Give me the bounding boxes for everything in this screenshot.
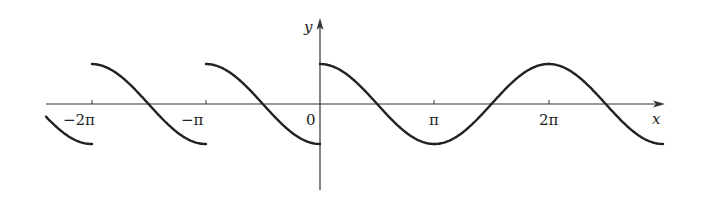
tick-label-negpi: −π (181, 111, 204, 129)
tick-label-2pi: 2π (539, 111, 559, 129)
tick-label-pi: π (429, 111, 439, 129)
tick-label-neg2pi: −2π (63, 111, 95, 129)
chart-canvas: −2π −π 0 π 2π x y (0, 0, 701, 199)
origin-label: 0 (306, 111, 316, 129)
y-axis-label: y (303, 18, 313, 36)
x-axis-label: x (652, 110, 661, 128)
